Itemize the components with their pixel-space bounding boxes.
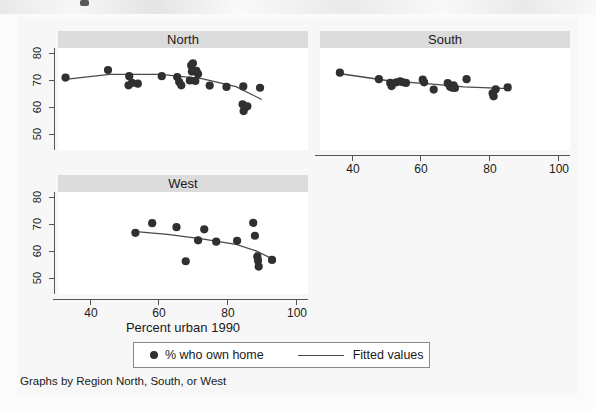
xtick-south-40 [352,156,353,161]
xaxis-line-west [53,299,308,300]
ytick-label-west-60: 60 [31,240,43,262]
xtick-south-100 [558,156,559,161]
data-point [420,78,428,86]
ytick-label-north-50: 50 [31,123,43,145]
scatter-svg-south [320,48,570,150]
ytick-label-north-70: 70 [31,69,43,91]
ytick-label-north-80: 80 [31,42,43,64]
ytick-west-50 [49,278,54,279]
circle-marker-icon [150,351,158,359]
data-point [134,80,142,88]
yaxis-line-north [54,48,55,150]
panel-plot-west [58,192,308,294]
ytick-label-north-60: 60 [31,96,43,118]
yaxis-line-west [54,192,55,294]
data-point [212,238,220,246]
panel-south: South 40 60 80 100 [320,31,570,150]
data-point [243,102,251,110]
data-point [504,83,512,91]
data-point [177,81,185,89]
scatter-svg-west [58,192,308,294]
legend: % who own home Fitted values [133,342,430,368]
data-point [222,83,230,91]
panel-title-south: South [320,31,570,48]
data-point [206,81,214,89]
data-point [375,75,383,83]
figure-root: North 80 70 60 50 South [0,0,596,409]
ytick-north-70 [49,80,54,81]
data-point [131,229,139,237]
xtick-west-60 [158,300,159,305]
line-marker-icon [298,355,344,356]
ytick-west-60 [49,251,54,252]
graph-note: Graphs by Region North, South, or West [20,375,226,387]
ytick-north-50 [49,134,54,135]
ytick-label-west-50: 50 [31,267,43,289]
xtick-south-60 [420,156,421,161]
ytick-west-70 [49,224,54,225]
data-point [490,92,498,100]
panel-title-west: West [58,175,308,192]
legend-entry-line: Fitted values [298,348,424,362]
legend-label-own-home: % who own home [165,348,264,362]
data-point [191,77,199,85]
data-points-south [336,69,512,101]
xaxis-title: Percent urban 1990 [58,320,308,335]
xtick-west-100 [296,300,297,305]
xtick-label-south-100: 100 [544,162,574,176]
panel-plot-south [320,48,570,150]
data-point [449,81,457,89]
data-point [239,82,247,90]
data-points-north [61,59,264,115]
data-points-west [131,219,276,271]
data-point [249,219,257,227]
ytick-west-80 [49,197,54,198]
data-point [61,73,69,81]
xtick-west-80 [227,300,228,305]
data-point [255,263,263,271]
data-point [462,75,470,83]
ytick-north-80 [49,53,54,54]
xtick-label-south-60: 60 [406,162,436,176]
data-point [251,232,259,240]
data-point [268,256,276,264]
xtick-label-south-80: 80 [475,162,505,176]
data-point [194,70,202,78]
xtick-label-west-100: 100 [282,306,312,320]
legend-label-fitted-values: Fitted values [353,348,424,362]
panel-plot-north [58,48,308,150]
data-point [430,86,438,94]
data-point [233,237,241,245]
ytick-label-west-80: 80 [31,186,43,208]
plot-area: North 80 70 60 50 South [18,17,578,395]
panel-west: West 80 70 60 50 40 60 [58,175,308,294]
data-point [148,219,156,227]
data-point [256,84,264,92]
panel-title-north: North [58,31,308,48]
data-point [402,79,410,87]
data-point [336,69,344,77]
xtick-south-80 [489,156,490,161]
data-point [182,257,190,265]
scatter-svg-north [58,48,308,150]
legend-entry-marker: % who own home [150,348,264,362]
data-point [189,59,197,67]
xtick-label-south-40: 40 [338,162,368,176]
data-point [158,72,166,80]
xaxis-line-south [315,155,570,156]
scan-artifact [0,0,596,14]
xtick-label-west-80: 80 [213,306,243,320]
scan-speck [80,0,89,6]
xtick-label-west-60: 60 [144,306,174,320]
ytick-label-west-70: 70 [31,213,43,235]
data-point [194,236,202,244]
panel-north: North 80 70 60 50 [58,31,308,150]
data-point [172,223,180,231]
xtick-label-west-40: 40 [76,306,106,320]
xtick-west-40 [90,300,91,305]
ytick-north-60 [49,107,54,108]
data-point [200,225,208,233]
data-point [492,85,500,93]
data-point [104,66,112,74]
